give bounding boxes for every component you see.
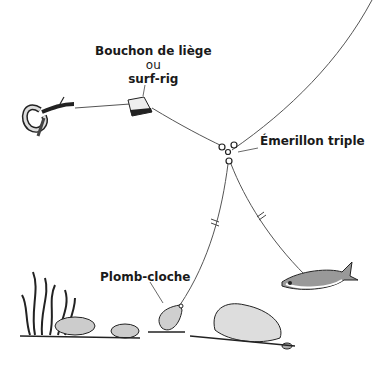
fishing-rig-diagram: Bouchon de liège ou surf-rig Émerillon t…: [0, 0, 385, 367]
baitfish-icon: [282, 262, 358, 289]
worm-bait-icon: [25, 97, 74, 136]
fish-line: [231, 164, 305, 275]
bell-sinker-icon: [159, 304, 183, 330]
float-label-line1: Bouchon de liège: [95, 44, 212, 58]
hook-leader-line: [75, 104, 130, 108]
swivel-pointer: [238, 148, 258, 152]
float-label-line2: surf-rig: [95, 72, 212, 86]
float-leader-line: [152, 108, 222, 146]
float-label: Bouchon de liège ou surf-rig: [95, 44, 212, 86]
float-pointer: [143, 85, 145, 96]
triple-swivel-icon: [219, 142, 237, 164]
cork-float-icon: [128, 97, 152, 116]
float-label-or: ou: [95, 58, 212, 72]
swivel-label: Émerillon triple: [260, 134, 365, 148]
sinker-pointer: [150, 282, 163, 303]
main-line: [232, 0, 372, 150]
sinker-label: Plomb-cloche: [100, 270, 191, 284]
